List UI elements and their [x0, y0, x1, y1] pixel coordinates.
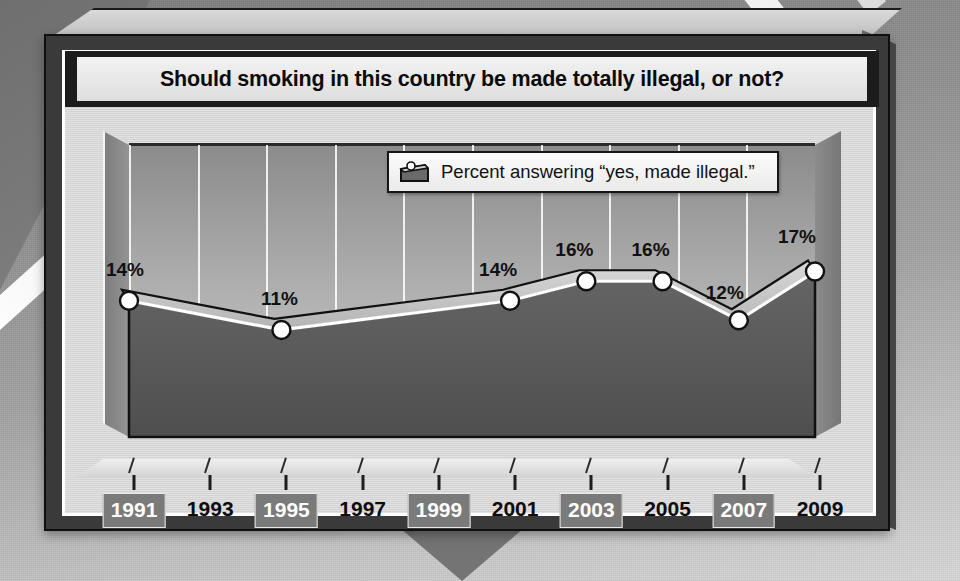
x-axis-label-2009: 2009 — [790, 493, 851, 526]
page-title: Should smoking in this country be made t… — [160, 67, 784, 92]
x-axis-tick-connector — [357, 457, 364, 473]
x-axis-tick-connector — [280, 457, 287, 473]
data-point-marker — [654, 272, 672, 290]
area-series-swatch-icon — [399, 160, 429, 184]
x-axis-label-2005: 2005 — [637, 493, 698, 526]
data-point-marker — [501, 292, 519, 310]
x-axis-label-1991: 1991 — [103, 493, 166, 528]
x-axis-label-1995: 1995 — [255, 493, 318, 528]
data-point-label: 16% — [632, 239, 670, 261]
plot-wall-right — [815, 131, 841, 437]
chart-card: Should smoking in this country be made t… — [44, 34, 890, 531]
x-axis-label-1997: 1997 — [332, 493, 393, 526]
data-point-label: 12% — [706, 282, 744, 304]
x-axis-label-1993: 1993 — [180, 493, 241, 526]
x-axis-labels: 1991199319951997199920012003200520072009 — [103, 493, 843, 535]
data-point-marker — [730, 311, 748, 329]
x-axis-tick-connector — [585, 457, 592, 473]
x-axis-tick — [285, 475, 288, 490]
x-axis-tick — [514, 475, 517, 490]
plot-wall-left — [103, 131, 129, 437]
data-point-marker — [272, 321, 290, 339]
x-axis-tick-connector — [204, 457, 211, 473]
chart-card-inner-panel: Should smoking in this country be made t… — [62, 50, 876, 516]
x-axis-tick — [819, 475, 822, 490]
data-point-label: 11% — [261, 288, 298, 310]
x-axis-tick-connector — [662, 457, 669, 473]
x-axis-tick — [666, 475, 669, 490]
x-axis-tick — [590, 475, 593, 490]
x-axis: 1991199319951997199920012003200520072009 — [103, 457, 843, 537]
data-point-label: 14% — [479, 259, 517, 281]
legend: Percent answering “yes, made illegal.” — [387, 151, 779, 193]
screenshot-root: Should smoking in this country be made t… — [0, 0, 960, 581]
x-axis-label-1999: 1999 — [408, 493, 471, 528]
x-axis-tick-connector — [128, 457, 135, 473]
x-axis-tick — [361, 475, 364, 490]
x-axis-tick — [209, 475, 212, 490]
data-point-label: 16% — [555, 239, 593, 261]
data-point-label: 17% — [778, 226, 816, 248]
x-axis-label-2001: 2001 — [485, 493, 546, 526]
x-axis-tick — [437, 475, 440, 490]
x-axis-tick-connector — [509, 457, 516, 473]
x-axis-tick — [133, 475, 136, 490]
x-axis-label-2003: 2003 — [560, 493, 623, 528]
data-point-marker — [806, 263, 824, 281]
x-axis-tick-connector — [738, 457, 745, 473]
data-point-marker — [120, 292, 138, 310]
title-band: Should smoking in this country be made t… — [65, 51, 879, 107]
x-axis-label-2007: 2007 — [712, 493, 775, 528]
legend-label: Percent answering “yes, made illegal.” — [441, 161, 755, 183]
x-axis-tick-connector — [814, 457, 821, 473]
data-point-label: 14% — [106, 259, 144, 281]
x-axis-tick — [742, 475, 745, 490]
plot-frame: 14%11%14%16%16%12%17% Percent answering … — [103, 131, 843, 461]
data-point-marker — [577, 272, 595, 290]
title-plate: Should smoking in this country be made t… — [77, 57, 867, 101]
x-axis-tick-connector — [433, 457, 440, 473]
